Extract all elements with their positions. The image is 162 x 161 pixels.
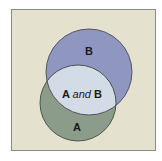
set-b-label: B (85, 45, 93, 57)
intersection-label: A and B (62, 88, 102, 100)
set-a-label: A (73, 121, 81, 133)
venn-diagram: B A and B A (0, 0, 162, 161)
